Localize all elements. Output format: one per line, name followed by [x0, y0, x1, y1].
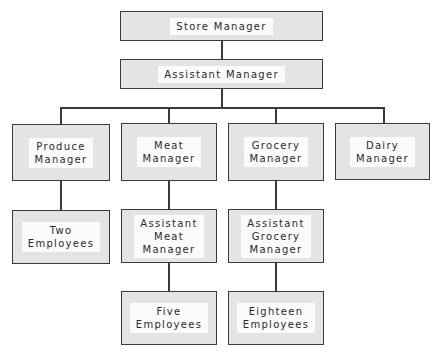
node-label: Five Employees	[130, 303, 208, 333]
connector-produce-to-employees	[60, 181, 62, 210]
node-label: Dairy Manager	[350, 137, 415, 167]
node-store-manager: Store Manager	[120, 11, 323, 41]
node-assistant-meat-manager: Assistant Meat Manager	[121, 209, 217, 263]
node-assistant-manager: Assistant Manager	[120, 59, 323, 89]
node-label: Assistant Grocery Manager	[241, 215, 310, 258]
connector-grocery-to-assistant	[275, 181, 277, 210]
node-label: Produce Manager	[29, 138, 94, 168]
connector-bus-to-grocery	[275, 107, 277, 124]
connector-assistant-grocery-to-employees	[275, 263, 277, 292]
node-label: Assistant Meat Manager	[134, 215, 203, 258]
node-assistant-grocery-manager: Assistant Grocery Manager	[228, 209, 324, 263]
node-label: Eighteen Employees	[237, 303, 315, 333]
node-label: Meat Manager	[137, 137, 202, 167]
connector-department-bus	[60, 107, 384, 109]
connector-bus-to-meat	[168, 107, 170, 124]
node-meat-employees: Five Employees	[121, 291, 217, 345]
node-label: Store Manager	[170, 18, 272, 35]
node-dairy-manager: Dairy Manager	[335, 123, 430, 180]
connector-store-to-assistant	[221, 40, 223, 59]
node-grocery-employees: Eighteen Employees	[228, 291, 324, 345]
node-produce-manager: Produce Manager	[12, 124, 110, 181]
connector-bus-to-produce	[60, 107, 62, 124]
node-produce-employees: Two Employees	[12, 210, 110, 264]
node-label: Assistant Manager	[158, 66, 285, 83]
connector-assistant-meat-to-employees	[168, 263, 170, 292]
node-label: Grocery Manager	[244, 137, 309, 167]
node-label: Two Employees	[22, 222, 100, 252]
connector-bus-to-dairy	[383, 107, 385, 124]
node-grocery-manager: Grocery Manager	[228, 123, 324, 181]
connector-meat-to-assistant	[168, 181, 170, 210]
connector-assistant-to-bus	[221, 88, 223, 108]
node-meat-manager: Meat Manager	[121, 123, 217, 181]
